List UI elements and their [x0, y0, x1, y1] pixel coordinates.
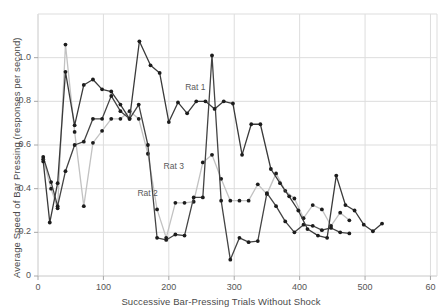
annotation-rat-3: Rat 3 — [164, 161, 184, 171]
chart-container: 00.20.40.60.81.0 010020030040050060 Rat … — [0, 0, 442, 308]
x-tick-label: 300 — [214, 282, 254, 292]
x-tick-label: 100 — [83, 282, 123, 292]
x-tick-label: 500 — [345, 282, 385, 292]
chart-plot-area — [0, 0, 442, 308]
data-series-group — [41, 39, 384, 261]
x-tick-label: 0 — [18, 282, 58, 292]
series-rat-3 — [41, 43, 351, 240]
x-tick-label: 60 — [410, 282, 442, 292]
x-axis-title: Successive Bar-Pressing Trials Without S… — [0, 296, 442, 307]
annotation-rat-1: Rat 1 — [185, 82, 205, 92]
axis-lines — [34, 14, 437, 280]
gridlines — [38, 14, 437, 276]
annotation-rat-2: Rat 2 — [137, 188, 157, 198]
y-axis-title: Average Speed of Bar Pressing (responses… — [11, 37, 22, 278]
x-tick-label: 200 — [149, 282, 189, 292]
x-tick-label: 400 — [280, 282, 320, 292]
